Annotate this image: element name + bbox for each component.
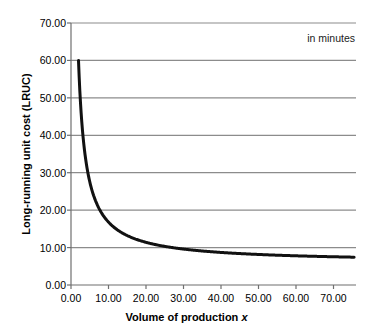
x-axis-variable: x	[241, 311, 247, 323]
x-tick-label: 50.00	[245, 293, 271, 304]
units-annotation: in minutes	[307, 32, 355, 44]
x-tick-label: 0.00	[61, 293, 81, 304]
chart-container: 0.0010.0020.0030.0040.0050.0060.0070.00 …	[0, 0, 373, 336]
y-axis-title: Long-running unit cost (LRUC)	[20, 23, 32, 285]
x-tick-label: 30.00	[170, 293, 196, 304]
lruc-curve	[79, 60, 355, 257]
x-axis-title: Volume of production x	[0, 311, 373, 323]
x-tick-label: 70.00	[320, 293, 346, 304]
gridlines	[71, 23, 356, 248]
x-tick-label: 20.00	[133, 293, 159, 304]
x-axis-title-text: Volume of production	[125, 311, 241, 323]
x-tick-label: 40.00	[208, 293, 234, 304]
x-tick-label: 60.00	[283, 293, 309, 304]
x-tick-label: 10.00	[95, 293, 121, 304]
